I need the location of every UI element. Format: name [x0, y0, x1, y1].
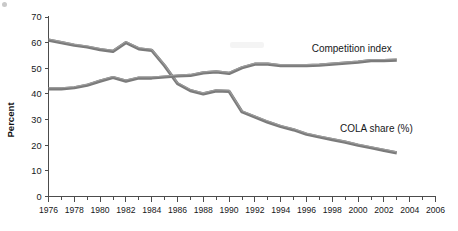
x-tick-label: 1994 [271, 205, 290, 215]
x-tick-label: 1992 [245, 205, 264, 215]
series-group [49, 39, 397, 153]
x-tick-label: 1978 [65, 205, 84, 215]
y-tick-label: 70 [31, 12, 41, 22]
x-tick-label: 1988 [194, 205, 213, 215]
y-tick-label: 50 [31, 64, 41, 74]
x-tick-label: 2002 [374, 205, 393, 215]
series-line-highlight-1 [49, 39, 397, 152]
y-tick-label: 60 [31, 38, 41, 48]
x-tick-label: 1990 [220, 205, 239, 215]
x-tick-label: 2000 [349, 205, 368, 215]
x-tick-label: 1982 [116, 205, 135, 215]
x-tick-group: 1976197819801982198419861988199019921994… [39, 197, 445, 215]
series-label-1: COLA share (%) [340, 123, 413, 134]
series-line-1 [49, 40, 397, 153]
y-tick-label: 10 [31, 166, 41, 176]
x-tick-label: 1996 [297, 205, 316, 215]
x-tick-label: 1980 [91, 205, 110, 215]
y-tick-group: 010203040506070 [31, 12, 48, 202]
y-axis-title-text: Percent [5, 102, 16, 138]
y-tick-label: 40 [31, 89, 41, 99]
chart-container: Percent 010203040506070 1976197819801982… [0, 0, 458, 231]
x-tick-label: 1986 [168, 205, 187, 215]
x-tick-label: 2004 [400, 205, 419, 215]
x-tick-label: 2006 [426, 205, 445, 215]
series-line-2 [49, 60, 397, 89]
line-chart-svg: Percent 010203040506070 1976197819801982… [0, 0, 458, 231]
series-label-group: COLA share (%)Competition index [312, 43, 413, 135]
series-label-2: Competition index [312, 43, 392, 54]
y-tick-label: 30 [31, 115, 41, 125]
x-tick-label: 1984 [142, 205, 161, 215]
x-tick-label: 1976 [39, 205, 58, 215]
y-tick-label: 0 [36, 192, 41, 202]
x-tick-label: 1998 [323, 205, 342, 215]
y-tick-label: 20 [31, 141, 41, 151]
y-axis-title: Percent [5, 102, 16, 138]
